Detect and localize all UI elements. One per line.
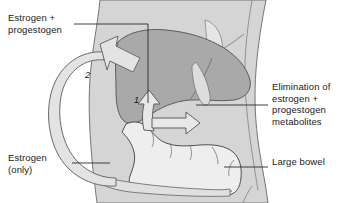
label-estrogen-only: Estrogen (only)	[8, 152, 47, 175]
label-elimination: Elimination of estrogen + progestogen me…	[272, 81, 330, 127]
label-elimination-line2: estrogen +	[272, 93, 330, 105]
arrow-number-2: 2	[85, 70, 90, 80]
label-elimination-line4: metabolites	[272, 116, 330, 128]
label-estrogen-progestogen-line2: progestogen	[8, 24, 62, 36]
figure-canvas: Estrogen + progestogen Estrogen (only) E…	[0, 0, 351, 203]
label-large-bowel: Large bowel	[272, 156, 325, 168]
label-estrogen-only-line1: Estrogen	[8, 152, 47, 164]
label-elimination-line1: Elimination of	[272, 81, 330, 93]
arrow-number-1: 1	[134, 95, 139, 105]
label-estrogen-only-line2: (only)	[8, 164, 47, 176]
label-estrogen-progestogen: Estrogen + progestogen	[8, 12, 62, 35]
label-large-bowel-line1: Large bowel	[272, 156, 325, 168]
label-estrogen-progestogen-line1: Estrogen +	[8, 12, 62, 24]
label-elimination-line3: progestogen	[272, 104, 330, 116]
